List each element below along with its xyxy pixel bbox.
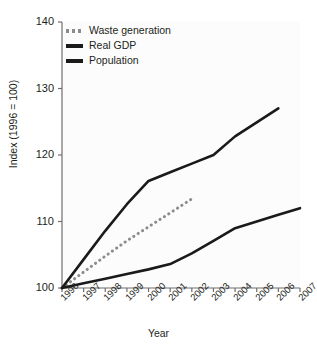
- legend-swatch-icon: [66, 59, 83, 63]
- legend-swatch-icon: [66, 29, 83, 33]
- legend-label: Population: [89, 55, 139, 66]
- legend-item: Population: [66, 54, 171, 67]
- legend-item: Real GDP: [66, 39, 171, 52]
- y-tick-label: 130: [20, 82, 54, 94]
- legend-label: Waste generation: [89, 25, 171, 36]
- y-tick-label: 110: [20, 215, 54, 227]
- y-tick-label: 140: [20, 15, 54, 27]
- legend-label: Real GDP: [89, 40, 136, 51]
- chart-container: 100110120130140 199619971998199920002001…: [0, 0, 317, 348]
- y-axis-title: Index (1996 = 100): [7, 59, 19, 189]
- y-tick-label: 120: [20, 148, 54, 160]
- x-axis-title: Year: [0, 327, 317, 339]
- legend-item: Waste generation: [66, 24, 171, 37]
- chart-legend: Waste generationReal GDPPopulation: [66, 24, 171, 69]
- legend-swatch-icon: [66, 44, 83, 48]
- y-tick-label: 100: [20, 281, 54, 293]
